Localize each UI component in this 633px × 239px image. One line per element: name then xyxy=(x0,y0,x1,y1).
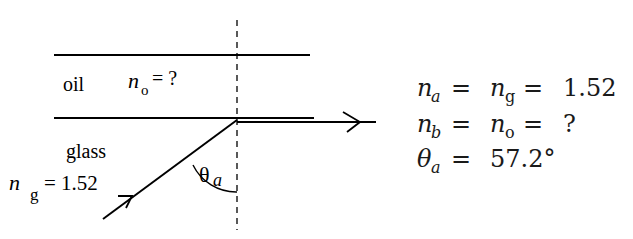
equation-1: n a = n g = 1.52 xyxy=(417,74,616,106)
eq2-equals: = xyxy=(451,110,471,138)
eq3-lhs: θ xyxy=(417,145,432,173)
oil-index-subscript: o xyxy=(141,82,149,98)
glass-index-symbol: n xyxy=(9,170,20,195)
angle-symbol: θ xyxy=(199,162,210,187)
refraction-diagram: oil n o = ? glass n g = 1.52 θ a n a = n… xyxy=(0,0,633,239)
eq1-lhs-sub: a xyxy=(431,87,441,106)
oil-index-symbol: n xyxy=(128,68,139,93)
eq2-rhs: ? xyxy=(563,110,576,138)
equation-2: n b = n o = ? xyxy=(417,110,576,142)
eq1-equals-2: = xyxy=(523,74,543,102)
glass-label: glass xyxy=(66,140,106,163)
oil-index-value: = ? xyxy=(152,67,177,89)
oil-label: oil xyxy=(63,73,85,95)
eq1-mid: n xyxy=(490,74,505,102)
eq3-rhs: 57.2° xyxy=(490,145,555,173)
eq2-equals-2: = xyxy=(523,110,543,138)
eq2-lhs-sub: b xyxy=(431,123,441,142)
glass-index-subscript: g xyxy=(30,185,39,204)
eq2-mid-sub: o xyxy=(505,123,515,142)
eq1-equals: = xyxy=(451,74,471,102)
eq3-lhs-sub: a xyxy=(431,158,441,177)
eq2-mid: n xyxy=(490,110,505,138)
eq1-mid-sub: g xyxy=(505,87,515,106)
angle-subscript: a xyxy=(213,170,222,190)
glass-index-value: = 1.52 xyxy=(44,171,98,195)
equation-3: θ a = 57.2° xyxy=(417,145,555,177)
eq1-rhs: 1.52 xyxy=(563,74,616,102)
eq3-equals: = xyxy=(451,145,471,173)
